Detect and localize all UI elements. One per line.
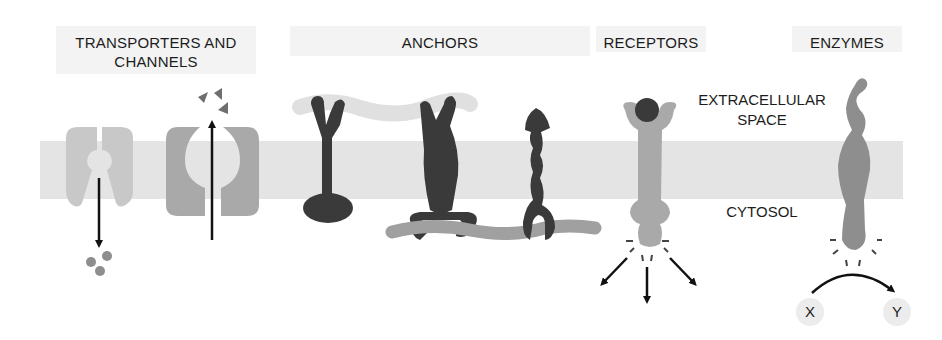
region-label-cytosol: CYTOSOL — [702, 203, 822, 221]
region-label-extracellular-line2: SPACE — [682, 111, 842, 129]
ligand-icon — [635, 98, 659, 122]
channel-open-icon — [166, 88, 259, 240]
anchor-protein-1-icon — [303, 96, 353, 223]
receptor-protein-icon — [603, 98, 694, 300]
enzyme-substrate-label: X — [796, 303, 824, 321]
cytoskeleton-filament — [392, 226, 595, 234]
enzyme-product-label: Y — [883, 303, 911, 321]
anchor-protein-3-icon — [523, 108, 555, 240]
region-label-extracellular-line1: EXTRACELLULAR — [682, 91, 842, 109]
transporter-closed-icon — [66, 127, 133, 276]
membrane-proteins-diagram — [0, 0, 942, 340]
